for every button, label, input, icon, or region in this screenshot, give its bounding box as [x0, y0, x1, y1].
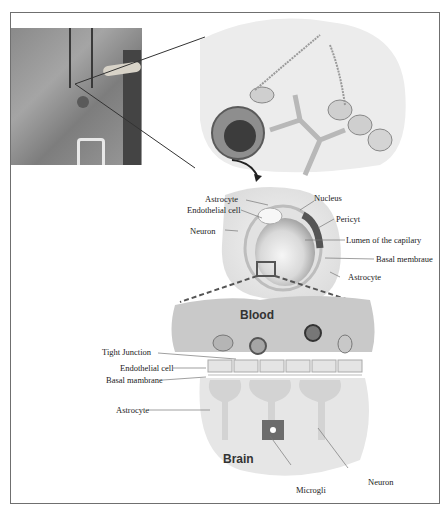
label-pericyte: Pericyt	[336, 215, 360, 224]
label-neuron-top: Neuron	[190, 227, 216, 236]
label-microglia: Microgli	[296, 486, 326, 495]
label-endothelial-cell-bottom: Endothelial cell	[120, 364, 174, 373]
label-neuron-bottom: Neuron	[368, 478, 394, 487]
label-lumen: Lumen of the capilary	[346, 236, 421, 245]
label-nucleus: Nucleus	[314, 194, 342, 203]
endothelial-layer	[208, 360, 362, 372]
label-astrocyte-bottom: Astrocyte	[116, 406, 149, 415]
label-endothelial-cell: Endothelial cell	[187, 206, 241, 215]
region-brain: Brain	[223, 452, 254, 466]
label-astrocyte-top: Astrocyte	[205, 195, 238, 204]
label-basal-membrane-bottom: Basal mambrane	[106, 376, 163, 385]
label-astrocyte-right: Astrocyte	[348, 273, 381, 282]
label-basal-membrane-top: Basal membraue	[376, 255, 433, 264]
label-tight-junction: Tight Junction	[102, 348, 151, 357]
top-capillary-illustration	[200, 19, 406, 175]
region-blood: Blood	[240, 308, 274, 322]
